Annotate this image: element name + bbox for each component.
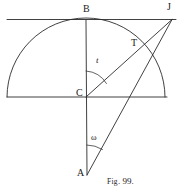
geometric-figure-drawing xyxy=(0,0,180,196)
angle-label-t: t xyxy=(96,56,99,65)
figure-container: B J T C A t ω Fig. 99. xyxy=(0,0,180,196)
figure-caption-prefix: Fig xyxy=(107,177,118,186)
vertex-label-j: J xyxy=(167,2,171,12)
vertex-label-c: C xyxy=(76,88,83,98)
angle-arc-omega xyxy=(87,145,103,150)
vertex-label-b: B xyxy=(83,4,90,14)
angle-label-omega: ω xyxy=(91,133,97,142)
figure-caption-suffix: . 99. xyxy=(118,176,134,186)
figure-caption: Fig. 99. xyxy=(107,176,134,187)
vertex-label-t: T xyxy=(131,38,137,48)
vertex-label-a: A xyxy=(77,168,84,178)
